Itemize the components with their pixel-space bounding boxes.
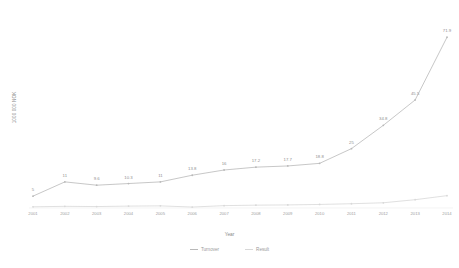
x-tick-label: 2006: [188, 211, 197, 216]
x-tick-label: 2002: [60, 211, 69, 216]
x-axis-title: Year: [0, 232, 459, 237]
x-tick-label: 2004: [124, 211, 133, 216]
series-line-result: [33, 196, 447, 207]
data-point: [223, 205, 225, 207]
data-point: [96, 206, 98, 208]
data-point: [64, 205, 66, 207]
data-label: 71.9: [443, 28, 451, 33]
x-tick-label: 2014: [442, 211, 451, 216]
chart-canvas: [0, 0, 459, 268]
legend-swatch-icon: [190, 249, 198, 250]
data-label: 9.6: [94, 176, 100, 181]
data-label: 16: [222, 161, 227, 166]
data-point: [191, 174, 193, 176]
data-point: [255, 204, 257, 206]
chart-legend: TurnoverResult: [0, 247, 459, 252]
data-label: 11: [158, 173, 162, 178]
data-point: [414, 99, 416, 101]
data-point: [287, 204, 289, 206]
legend-item-turnover[interactable]: Turnover: [190, 247, 219, 252]
data-point: [446, 195, 448, 197]
data-label: 11: [63, 173, 67, 178]
legend-label: Turnover: [201, 247, 219, 252]
data-point: [382, 202, 384, 204]
data-point: [287, 165, 289, 167]
data-point: [319, 204, 321, 206]
data-point: [64, 181, 66, 183]
x-tick-label: 2012: [379, 211, 388, 216]
x-tick-label: 2008: [251, 211, 260, 216]
data-label: 10.3: [124, 175, 132, 180]
x-tick-label: 2007: [219, 211, 228, 216]
data-point: [223, 169, 225, 171]
data-label: 13.8: [188, 166, 196, 171]
x-tick-label: 2011: [347, 211, 356, 216]
data-label: 45.5: [411, 91, 419, 96]
data-point: [255, 166, 257, 168]
data-label: 17.7: [284, 157, 292, 162]
y-axis-title: 1000 000 NOK: [12, 73, 17, 143]
legend-item-result[interactable]: Result: [245, 247, 269, 252]
data-point: [351, 148, 353, 150]
x-tick-label: 2001: [28, 211, 37, 216]
data-point: [191, 206, 193, 208]
data-point: [351, 203, 353, 205]
data-point: [159, 205, 161, 207]
data-point: [32, 195, 34, 197]
x-tick-label: 2013: [410, 211, 419, 216]
x-tick-label: 2005: [156, 211, 165, 216]
x-tick-label: 2010: [315, 211, 324, 216]
data-point: [128, 183, 130, 185]
data-label: 5: [32, 187, 34, 192]
data-label: 25: [349, 140, 354, 145]
data-point: [319, 162, 321, 164]
data-label: 17.2: [252, 158, 260, 163]
x-tick-label: 2003: [92, 211, 101, 216]
x-tick-label: 2009: [283, 211, 292, 216]
legend-swatch-icon: [245, 249, 253, 250]
data-point: [32, 206, 34, 208]
data-point: [414, 199, 416, 201]
data-point: [128, 205, 130, 207]
line-chart: 1000 000 NOK Year 2001200220032004200520…: [0, 0, 459, 268]
data-point: [159, 181, 161, 183]
data-point: [382, 124, 384, 126]
data-label: 34.8: [379, 116, 387, 121]
data-point: [446, 36, 448, 38]
data-label: 18.8: [315, 154, 323, 159]
legend-label: Result: [256, 247, 269, 252]
data-point: [96, 184, 98, 186]
